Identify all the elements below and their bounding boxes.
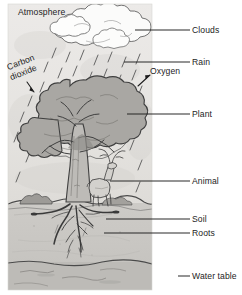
label-oxygen: Oxygen — [150, 66, 180, 76]
label-plant: Plant — [192, 109, 212, 119]
label-atmosphere: Atmosphere — [18, 7, 65, 17]
label-rain: Rain — [192, 57, 210, 67]
ecosystem-diagram — [0, 0, 242, 295]
label-water-table: Water table — [192, 271, 237, 281]
deer-body — [89, 179, 110, 198]
label-animal: Animal — [192, 176, 219, 186]
label-clouds: Clouds — [192, 25, 219, 35]
label-soil: Soil — [192, 214, 207, 224]
deer-head — [108, 163, 117, 170]
water-table-region — [8, 262, 152, 290]
illustration-panel — [8, 2, 156, 290]
label-roots: Roots — [192, 228, 215, 238]
